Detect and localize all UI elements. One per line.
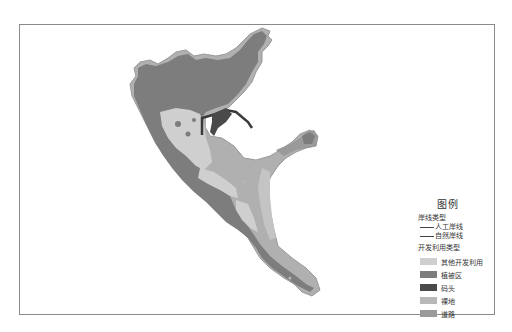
line-symbol xyxy=(420,227,434,228)
legend-item-artificial-coastline: 人工岸线 xyxy=(420,223,494,232)
coastline-type-heading: 岸线类型 xyxy=(418,214,494,223)
legend-label: 植被区 xyxy=(441,270,462,280)
legend-item-natural-coastline: 自然岸线 xyxy=(420,232,494,241)
landuse-type-heading: 开发利用类型 xyxy=(418,244,494,253)
legend-item-wharf: 码头 xyxy=(420,281,494,294)
legend-item-vegetation: 植被区 xyxy=(420,268,494,281)
bare-land-patch xyxy=(289,277,292,280)
legend-title: 图例 xyxy=(418,196,478,211)
swatch-vegetation xyxy=(420,271,437,278)
line-symbol xyxy=(420,236,434,237)
legend-label: 裸地 xyxy=(441,296,455,306)
map-legend: 图例 岸线类型 人工岸线 自然岸线 开发利用类型 其他开发利用 植被区 码头 裸… xyxy=(418,196,494,320)
legend-label: 人工岸线 xyxy=(435,223,463,232)
swatch-bare-land xyxy=(420,297,437,304)
bare-land-patch xyxy=(243,181,246,184)
legend-label: 其他开发利用 xyxy=(441,257,483,267)
legend-item-other-development: 其他开发利用 xyxy=(420,255,494,268)
swatch-wharf xyxy=(420,284,437,291)
legend-label: 自然岸线 xyxy=(435,232,463,241)
vegetation-patch xyxy=(192,118,196,122)
legend-item-bare-land: 裸地 xyxy=(420,294,494,307)
vegetation-patch xyxy=(186,132,191,137)
swatch-road xyxy=(420,310,437,317)
swatch-other-development xyxy=(420,258,437,265)
legend-label: 码头 xyxy=(441,283,455,293)
legend-item-road: 道路 xyxy=(420,307,494,320)
vegetation-patch xyxy=(175,121,181,127)
legend-label: 道路 xyxy=(441,309,455,319)
